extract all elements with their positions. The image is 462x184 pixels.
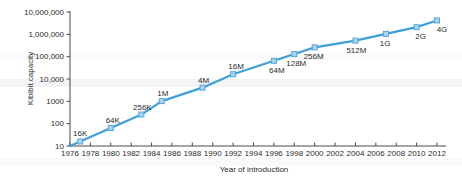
x-tick-label: 1986 (163, 149, 181, 158)
capacity-growth-chart: 1976197819801982198419861988199019921994… (0, 0, 462, 184)
y-tick-label: 10 (55, 142, 64, 151)
data-point-label: 1M (157, 89, 168, 98)
data-point-marker (139, 112, 144, 117)
data-point-label: 16K (73, 129, 88, 138)
data-point-marker (435, 18, 440, 23)
data-point-marker (78, 139, 83, 144)
x-tick-label: 2012 (428, 149, 446, 158)
y-tick-label: 10,000 (40, 75, 65, 84)
x-tick-label: 1994 (245, 149, 263, 158)
y-tick-label: 1000 (46, 97, 64, 106)
data-point-label: 16M (228, 62, 244, 71)
data-point-marker (312, 45, 317, 50)
data-point-marker (414, 25, 419, 30)
data-point-label: 256K (133, 103, 152, 112)
data-point-label: 256M (304, 52, 324, 61)
data-point-label: 1G (380, 39, 391, 48)
x-tick-label: 1992 (224, 149, 242, 158)
data-point-label: 2G (415, 32, 426, 41)
data-point-label: 64M (269, 66, 285, 75)
y-tick-label: 100,000 (35, 52, 64, 61)
x-tick-label: 1988 (183, 149, 201, 158)
data-point-label: 512M (346, 46, 366, 55)
data-point-label: 64K (106, 116, 121, 125)
x-tick-label: 1978 (81, 149, 99, 158)
data-point-label: 4G (437, 25, 448, 34)
x-tick-label: 1990 (204, 149, 222, 158)
x-axis-title: Year of introduction (174, 165, 334, 174)
data-point-label: 4M (198, 76, 209, 85)
y-tick-label: 100 (51, 119, 65, 128)
data-point-marker (159, 99, 164, 104)
data-point-marker (384, 31, 389, 36)
y-tick-label: 10,000,000 (24, 8, 65, 17)
x-tick-label: 2002 (326, 149, 344, 158)
x-tick-label: 1984 (143, 149, 161, 158)
x-tick-label: 1980 (102, 149, 120, 158)
x-tick-label: 2004 (347, 149, 365, 158)
data-point-marker (271, 58, 276, 63)
data-point-marker (292, 52, 297, 57)
data-point-marker (200, 85, 205, 90)
x-tick-label: 1998 (285, 149, 303, 158)
x-tick-label: 2008 (387, 149, 405, 158)
x-tick-label: 2006 (367, 149, 385, 158)
chart-plot-area: 1976197819801982198419861988199019921994… (0, 0, 462, 184)
x-tick-label: 2000 (306, 149, 324, 158)
y-axis-title: Kibibit capacity (26, 19, 35, 139)
data-point-marker (231, 72, 236, 77)
data-point-marker (108, 125, 113, 130)
x-tick-label: 1982 (122, 149, 140, 158)
x-tick-label: 2010 (408, 149, 426, 158)
x-tick-label: 1996 (265, 149, 283, 158)
data-point-marker (353, 38, 358, 43)
